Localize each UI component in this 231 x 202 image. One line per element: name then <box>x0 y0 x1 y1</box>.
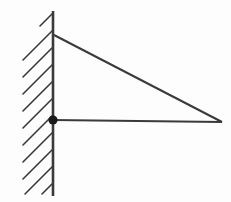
wall-hatch-mark-4 <box>23 65 52 94</box>
diagonal-member-line <box>54 35 222 122</box>
wall-hatch-mark-9 <box>23 150 52 179</box>
diagram-canvas <box>0 0 231 202</box>
wall-hatching-group <box>23 14 52 194</box>
wall-hatch-mark-1 <box>40 14 52 26</box>
wall-hatch-mark-3 <box>23 48 52 77</box>
wall-hatch-mark-2 <box>23 31 52 60</box>
wall-hatch-mark-6 <box>23 99 52 128</box>
wall-hatch-mark-5 <box>23 82 52 111</box>
horizontal-member-line <box>53 120 222 122</box>
pinned-support-joint <box>48 115 57 124</box>
wall-hatch-mark-8 <box>23 133 52 162</box>
bracket-truss-diagram <box>0 0 231 202</box>
wall-hatch-mark-7 <box>23 116 52 145</box>
wall-hatch-mark-11 <box>42 184 52 194</box>
wall-hatch-mark-10 <box>25 167 52 194</box>
